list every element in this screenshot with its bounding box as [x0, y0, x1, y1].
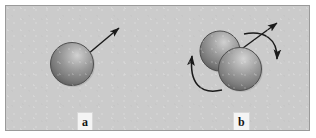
panel-a-sphere	[51, 43, 94, 86]
figure-root: a b	[0, 0, 316, 138]
figure-frame: a b	[5, 5, 310, 131]
panel-b-group	[192, 23, 278, 92]
panel-label-b: b	[233, 112, 250, 131]
panel-a-group	[51, 28, 120, 87]
figure-canvas	[6, 6, 310, 131]
panel-label-a: a	[77, 112, 93, 131]
panel-b-sphere-front	[219, 48, 262, 91]
